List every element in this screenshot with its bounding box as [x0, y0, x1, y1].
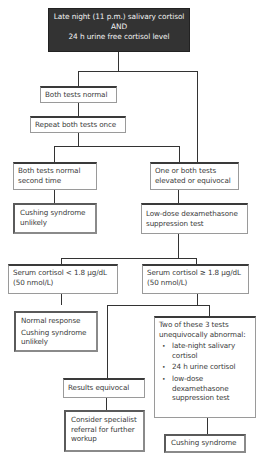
- connector: [106, 398, 107, 410]
- connector: [54, 146, 180, 147]
- normal-second-box: Both tests normal second time: [13, 162, 97, 190]
- connector: [107, 305, 210, 306]
- elevated-box: One or both tests elevated or equivocal: [150, 162, 239, 190]
- connector: [78, 103, 79, 116]
- start-line-2: AND: [51, 22, 187, 32]
- elevated-text: One or both tests elevated or equivocal: [155, 166, 234, 185]
- connector: [197, 294, 198, 305]
- connector: [209, 305, 210, 316]
- connector: [118, 52, 119, 71]
- connector: [54, 146, 55, 162]
- criteria-item: late-night salivary cortisol: [159, 341, 251, 360]
- connector: [54, 190, 55, 203]
- cushing-text: Cushing syndrome: [171, 438, 239, 448]
- serum-high-line-1: Serum cortisol ≥ 1.8 μg/dL: [147, 268, 244, 278]
- connector: [61, 294, 62, 305]
- both-normal-box: Both tests normal: [40, 86, 117, 103]
- both-normal-text: Both tests normal: [45, 90, 112, 100]
- serum-high-line-2: (50 nmol/L): [147, 278, 244, 288]
- start-line-1: Late night (11 p.m.) salivary cortisol: [51, 12, 187, 22]
- serum-high-box: Serum cortisol ≥ 1.8 μg/dL (50 nmol/L): [142, 264, 249, 294]
- start-box: Late night (11 p.m.) salivary cortisol A…: [48, 8, 190, 52]
- start-line-3: 24 h urine free cortisol level: [51, 32, 187, 42]
- normal-response-line-2: Cushing syndrome unlikely: [21, 328, 91, 347]
- results-equivocal-box: Results equivocal: [63, 378, 145, 398]
- connector: [61, 258, 197, 259]
- criteria-item: 24 h urine cortisol: [159, 362, 251, 372]
- normal-response-box: Normal response Cushing syndrome unlikel…: [14, 311, 98, 352]
- criteria-item: low-dose dexamethasone suppression test: [159, 374, 251, 403]
- criteria-list: late-night salivary cortisol 24 h urine …: [159, 341, 251, 403]
- serum-low-line-1: Serum cortisol < 1.8 μg/dL: [13, 268, 113, 278]
- normal-second-text: Both tests normal second time: [18, 166, 92, 185]
- serum-low-line-2: (50 nmol/L): [13, 278, 113, 288]
- repeat-text: Repeat both tests once: [35, 120, 121, 130]
- connector: [207, 418, 208, 434]
- connector: [197, 71, 198, 162]
- cushing-box: Cushing syndrome: [164, 434, 246, 453]
- connector: [78, 133, 79, 146]
- normal-response-line-1: Normal response: [21, 316, 91, 326]
- low-dose-text: Low-dose dexamethasone suppression test: [146, 207, 243, 228]
- two-of-three-box: Two of these 3 tests unequivocally abnor…: [154, 316, 256, 418]
- connector: [179, 146, 180, 162]
- connector: [107, 305, 108, 378]
- connector: [178, 234, 179, 258]
- results-equivocal-text: Results equivocal: [68, 382, 140, 393]
- serum-low-box: Serum cortisol < 1.8 μg/dL (50 nmol/L): [8, 264, 118, 294]
- two-of-three-heading: Two of these 3 tests unequivocally abnor…: [159, 320, 251, 339]
- specialist-text: Consider specialist referral for further…: [71, 415, 138, 444]
- connector: [178, 190, 179, 203]
- unlikely-box: Cushing syndrome unlikely: [13, 203, 97, 234]
- unlikely-text: Cushing syndrome unlikely: [20, 208, 90, 227]
- specialist-box: Consider specialist referral for further…: [64, 410, 145, 452]
- repeat-box: Repeat both tests once: [30, 116, 126, 133]
- connector: [78, 71, 198, 72]
- low-dose-box: Low-dose dexamethasone suppression test: [141, 203, 248, 234]
- connector: [78, 71, 79, 86]
